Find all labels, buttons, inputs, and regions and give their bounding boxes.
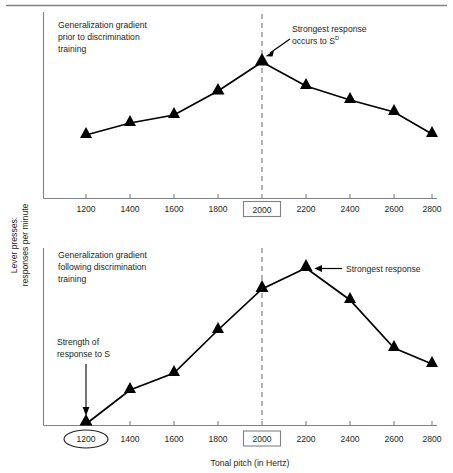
bottom-series-markers xyxy=(80,259,439,426)
data-point-marker xyxy=(388,340,400,351)
top-series-line xyxy=(86,62,432,135)
tick-label: 1800 xyxy=(208,434,227,444)
tick-label: 2200 xyxy=(296,204,315,214)
top-panel-caption-line3: training xyxy=(58,44,86,54)
top-panel: Generalization gradient prior to discrim… xyxy=(44,12,442,217)
tick-label: 2600 xyxy=(384,204,403,214)
tick-label: 2400 xyxy=(340,204,359,214)
tick-label-circled: 1200 xyxy=(76,434,95,444)
tick-label: 1200 xyxy=(76,204,95,214)
data-point-marker xyxy=(344,92,356,103)
tick-label: 2800 xyxy=(422,434,441,444)
figure-container: Generalization gradient prior to discrim… xyxy=(0,0,453,473)
y-axis-label-line1: Lever presses: xyxy=(9,217,19,273)
bottom-annotation-right: Strongest response xyxy=(346,264,421,274)
bottom-annotation-left-line2: response to S xyxy=(57,349,110,359)
bottom-panel-caption-line2: following discrimination xyxy=(58,262,147,272)
top-annotation-line2: occurs to SD xyxy=(292,35,339,46)
tick-label: 1800 xyxy=(208,204,227,214)
bottom-annotation-left-line1: Strength of xyxy=(57,337,100,347)
bottom-x-tick-labels: 1200 1400 1600 1800 2000 2200 2400 2600 … xyxy=(64,430,442,448)
y-axis-label-line2: responses per minute xyxy=(20,203,30,286)
tick-label: 2400 xyxy=(340,434,359,444)
top-x-tick-labels: 1200 1400 1600 1800 2000 2200 2400 2600 … xyxy=(76,202,441,217)
tick-label: 2200 xyxy=(296,434,315,444)
top-panel-caption-line1: Generalization gradient xyxy=(58,20,147,30)
tick-label-highlighted: 2000 xyxy=(252,205,271,215)
bottom-x-ticks xyxy=(86,421,432,426)
tick-label: 2600 xyxy=(384,434,403,444)
top-annotation-line1: Strongest response xyxy=(292,24,367,34)
tick-label: 2800 xyxy=(422,204,441,214)
data-point-marker xyxy=(255,53,269,66)
tick-label: 1600 xyxy=(164,204,183,214)
bottom-annotation-left-arrow xyxy=(83,364,90,416)
tick-label: 1600 xyxy=(164,434,183,444)
top-annotation-arrow xyxy=(266,39,291,57)
data-point-marker xyxy=(300,259,313,271)
top-annotation-line2-text: occurs to S xyxy=(292,36,335,46)
top-panel-caption-line2: prior to discrimination xyxy=(58,32,140,42)
generalization-gradient-figure: Generalization gradient prior to discrim… xyxy=(0,0,453,473)
bottom-panel: Generalization gradient following discri… xyxy=(44,248,442,468)
top-series-markers xyxy=(80,53,438,138)
tick-label-highlighted: 2000 xyxy=(252,434,271,444)
top-x-ticks xyxy=(86,194,432,199)
bottom-panel-caption-line3: training xyxy=(58,274,86,284)
data-point-marker xyxy=(168,365,180,376)
bottom-panel-caption-line1: Generalization gradient xyxy=(58,250,147,260)
data-point-marker xyxy=(80,127,92,138)
tick-label: 1400 xyxy=(120,204,139,214)
y-axis-label: Lever presses: responses per minute xyxy=(9,203,30,286)
bottom-annotation-right-arrow xyxy=(315,265,343,272)
sd-superscript: D xyxy=(335,35,339,41)
x-axis-label: Tonal pitch (in Hertz) xyxy=(211,458,290,468)
data-point-marker xyxy=(212,322,224,333)
data-point-marker xyxy=(388,104,400,115)
data-point-marker xyxy=(124,115,136,126)
tick-label: 1400 xyxy=(120,434,139,444)
